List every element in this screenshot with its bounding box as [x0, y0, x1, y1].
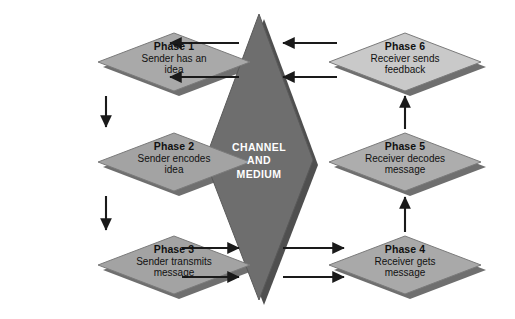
phase-4-shape[interactable]	[329, 236, 481, 294]
diagram-canvas: Phase 1 Sender has an idea Phase 2 Sende…	[0, 0, 515, 319]
phase-6-shape[interactable]	[329, 33, 481, 91]
diagram-graphics	[0, 0, 515, 319]
phase-1-shape[interactable]	[98, 33, 250, 91]
phase-5-shape[interactable]	[329, 133, 481, 191]
phase-3-shape[interactable]	[98, 236, 250, 294]
